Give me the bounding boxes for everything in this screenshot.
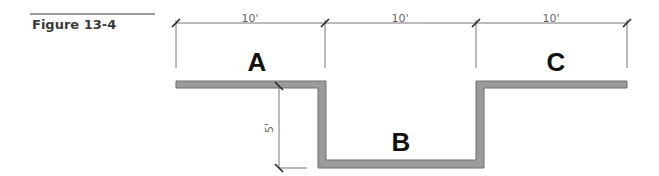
profile-diagram: 10' 10' 10' 5' A B C	[0, 0, 659, 176]
region-label-b: B	[392, 127, 411, 157]
dimension-label-depth: 5'	[263, 123, 276, 133]
region-label-a: A	[248, 47, 267, 77]
vertical-dimension: 5'	[263, 82, 307, 172]
region-label-c: C	[547, 47, 566, 77]
dimension-label-b: 10'	[391, 12, 408, 25]
dimension-label-c: 10'	[542, 12, 559, 25]
dimension-label-a: 10'	[241, 12, 258, 25]
